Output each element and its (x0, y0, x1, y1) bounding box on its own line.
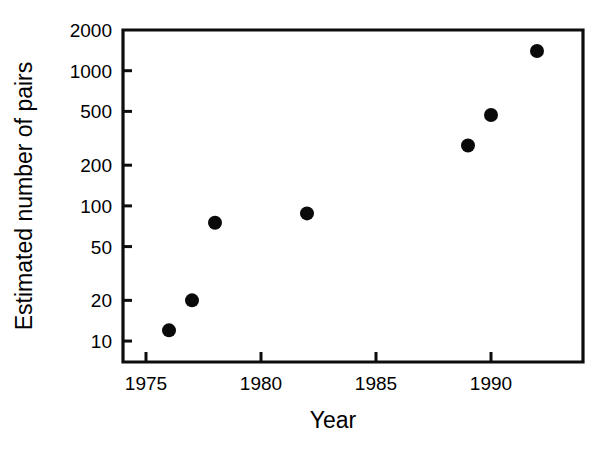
x-axis-tick-labels: 1975198019851990 (125, 373, 512, 394)
y-tick-label: 1000 (70, 61, 112, 82)
y-tick-label: 50 (91, 237, 112, 258)
data-point (185, 293, 199, 307)
y-tick-label: 10 (91, 331, 112, 352)
y-tick-label: 200 (80, 155, 112, 176)
data-point (530, 44, 544, 58)
x-tick-label: 1985 (355, 373, 397, 394)
y-axis-ticks (123, 71, 132, 341)
y-tick-label: 500 (80, 101, 112, 122)
chart-figure: 10205010020050010002000 1975198019851990… (0, 0, 615, 455)
data-point (461, 138, 475, 152)
scatter-plot: 10205010020050010002000 1975198019851990… (0, 0, 615, 455)
data-point (162, 323, 176, 337)
y-axis-title: Estimated number of pairs (11, 62, 37, 330)
x-axis-title: Year (310, 407, 357, 433)
y-tick-label: 100 (80, 196, 112, 217)
data-point (484, 108, 498, 122)
x-tick-label: 1975 (125, 373, 167, 394)
data-point-series (162, 44, 544, 337)
y-axis-tick-labels: 10205010020050010002000 (70, 20, 112, 352)
data-point (208, 216, 222, 230)
x-tick-label: 1980 (240, 373, 282, 394)
axis-frame (123, 30, 583, 362)
x-tick-label: 1990 (470, 373, 512, 394)
data-point (300, 206, 314, 220)
y-tick-label: 2000 (70, 20, 112, 41)
y-tick-label: 20 (91, 290, 112, 311)
